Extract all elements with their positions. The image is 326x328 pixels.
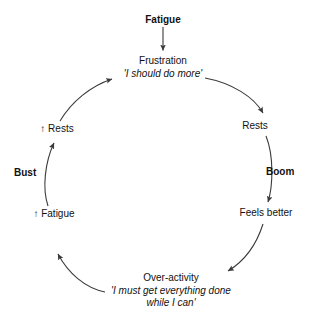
node-increased-fatigue-label: ↑ Fatigue xyxy=(18,208,90,221)
node-over-activity-label: Over-activity xyxy=(83,272,259,285)
arrow-feels-better-to-over-activity xyxy=(228,224,263,271)
node-increased-fatigue: ↑ Fatigue xyxy=(18,208,90,221)
phase-label-bust: Bust xyxy=(14,167,36,178)
node-frustration: Frustration 'I should do more' xyxy=(103,55,223,80)
boom-bust-cycle-diagram: Fatigue Frustration 'I should do more' R… xyxy=(0,0,326,328)
node-feels-better-label: Feels better xyxy=(224,207,308,220)
arrow-increased-fatigue-to-increased-rests xyxy=(45,143,54,206)
phase-label-boom: Boom xyxy=(266,166,294,177)
node-feels-better: Feels better xyxy=(224,207,308,220)
node-rests-label: Rests xyxy=(225,120,285,133)
node-increased-rests: ↑ Rests xyxy=(26,123,88,136)
node-fatigue-top: Fatigue xyxy=(113,14,213,27)
node-over-activity-quote-line2: while I can' xyxy=(83,297,259,310)
node-fatigue-top-label: Fatigue xyxy=(113,14,213,27)
node-rests: Rests xyxy=(225,120,285,133)
node-over-activity: Over-activity 'I must get everything don… xyxy=(83,272,259,310)
arrow-increased-rests-to-frustration xyxy=(60,79,112,121)
node-frustration-label: Frustration xyxy=(103,55,223,68)
node-frustration-quote: 'I should do more' xyxy=(103,68,223,81)
node-increased-rests-label: ↑ Rests xyxy=(26,123,88,136)
arrow-frustration-to-rests xyxy=(205,78,263,113)
node-over-activity-quote-line1: 'I must get everything done xyxy=(83,285,259,298)
